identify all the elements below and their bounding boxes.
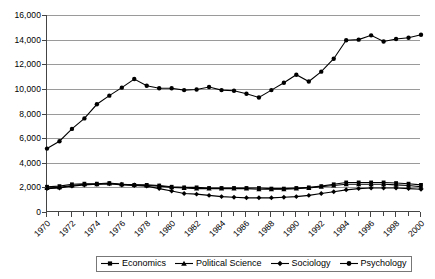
x-tick-major: [171, 212, 172, 217]
y-tick-label: 16,000: [1, 11, 41, 20]
legend-label: Psychology: [361, 258, 407, 269]
y-tick-mark: [42, 40, 46, 41]
x-tick-minor: [308, 212, 309, 216]
x-tick-minor: [58, 212, 59, 216]
x-tick-minor: [408, 212, 409, 216]
x-tick-major: [71, 212, 72, 217]
x-tick-major: [270, 212, 271, 217]
y-tick-label: 6,000: [1, 134, 41, 143]
y-tick-mark: [42, 114, 46, 115]
legend-item-sociology[interactable]: Sociology: [271, 258, 331, 269]
x-tick-minor: [183, 212, 184, 216]
x-tick-major: [46, 212, 47, 217]
legend-marker-square-icon: [101, 259, 119, 268]
x-tick-major: [146, 212, 147, 217]
x-tick-minor: [333, 212, 334, 216]
y-tick-label: 2,000: [1, 183, 41, 192]
x-tick-minor: [233, 212, 234, 216]
x-tick-major: [295, 212, 296, 217]
x-tick-major: [320, 212, 321, 217]
x-tick-major: [395, 212, 396, 217]
y-tick-label: 14,000: [1, 36, 41, 45]
x-tick-minor: [258, 212, 259, 216]
y-tick-label: 10,000: [1, 85, 41, 94]
chart-container: 02,0004,0006,0008,00010,00012,00014,0001…: [0, 0, 435, 279]
x-tick-minor: [133, 212, 134, 216]
y-tick-label: 4,000: [1, 159, 41, 168]
legend-label: Economics: [122, 258, 166, 269]
series-layer: [47, 15, 421, 212]
y-tick-label: 8,000: [1, 110, 41, 119]
x-tick-major: [121, 212, 122, 217]
y-tick-mark: [42, 138, 46, 139]
x-tick-major: [345, 212, 346, 217]
y-tick-label: 0: [1, 208, 41, 217]
y-tick-mark: [42, 15, 46, 16]
x-tick-major: [96, 212, 97, 217]
x-tick-minor: [383, 212, 384, 216]
chart-legend: EconomicsPolitical ScienceSociologyPsych…: [96, 256, 412, 272]
legend-item-psychology[interactable]: Psychology: [340, 258, 407, 269]
y-tick-mark: [42, 89, 46, 90]
legend-label: Sociology: [292, 258, 331, 269]
x-tick-minor: [283, 212, 284, 216]
x-tick-minor: [208, 212, 209, 216]
series-psychology: [45, 33, 423, 151]
x-tick-major: [420, 212, 421, 217]
y-tick-mark: [42, 64, 46, 65]
legend-marker-triangle-icon: [175, 259, 193, 268]
x-tick-major: [370, 212, 371, 217]
x-tick-label: 1970: [6, 219, 52, 265]
legend-item-economics[interactable]: Economics: [101, 258, 166, 269]
y-tick-mark: [42, 187, 46, 188]
y-tick-label: 12,000: [1, 60, 41, 69]
plot-area: [46, 15, 420, 212]
x-tick-major: [221, 212, 222, 217]
legend-label: Political Science: [196, 258, 262, 269]
legend-marker-circle-icon: [340, 259, 358, 268]
x-tick-minor: [83, 212, 84, 216]
legend-marker-diamond-icon: [271, 259, 289, 268]
legend-item-political-science[interactable]: Political Science: [175, 258, 262, 269]
y-tick-mark: [42, 163, 46, 164]
x-tick-major: [196, 212, 197, 217]
x-tick-minor: [358, 212, 359, 216]
x-tick-major: [245, 212, 246, 217]
x-tick-minor: [158, 212, 159, 216]
x-tick-minor: [108, 212, 109, 216]
